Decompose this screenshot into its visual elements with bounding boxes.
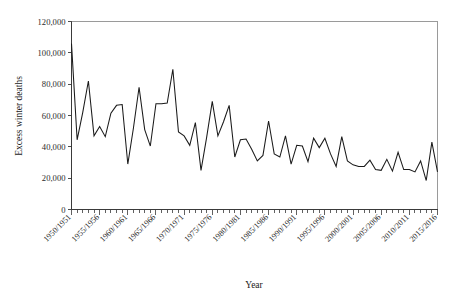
x-tick-label: 1970/1971 <box>154 213 185 244</box>
x-tick-label: 1965/1966 <box>126 213 157 244</box>
y-axis: 020,00040,00060,00080,000100,000120,000 … <box>14 17 72 215</box>
x-tick-label: 2010/2011 <box>380 213 411 244</box>
x-tick-label: 1960/1961 <box>98 213 129 244</box>
x-tick-label: 2015/2016 <box>408 213 439 244</box>
x-tick-label: 1990/1991 <box>267 213 298 244</box>
chart-figure: 020,00040,00060,00080,000100,000120,000 … <box>0 0 470 301</box>
y-tick-label: 40,000 <box>42 142 66 152</box>
excess-winter-deaths-series <box>72 43 438 180</box>
series-group <box>72 43 438 180</box>
x-tick-label: 1975/1976 <box>183 213 214 244</box>
y-tick-group: 020,00040,00060,00080,000100,000120,000 <box>38 17 72 215</box>
x-tick-label: 2005/2006 <box>351 213 382 244</box>
y-tick-label: 120,000 <box>38 17 66 27</box>
x-tick-label: 1955/1956 <box>70 213 101 244</box>
y-tick-label: 60,000 <box>42 111 66 121</box>
y-tick-label: 100,000 <box>38 48 66 58</box>
x-tick-label: 1995/1996 <box>295 213 326 244</box>
x-tick-label-group: 1950/19511955/19561960/19611965/19661970… <box>42 213 439 244</box>
x-tick-group <box>72 210 438 215</box>
y-tick-label: 20,000 <box>42 173 66 183</box>
plot-frame <box>72 22 438 210</box>
excess-winter-deaths-line-chart: 020,00040,00060,00080,000100,000120,000 … <box>0 0 470 301</box>
y-tick-label: 80,000 <box>42 79 66 89</box>
x-tick-label: 2000/2001 <box>323 213 354 244</box>
x-tick-label: 1980/1981 <box>211 213 242 244</box>
y-axis-title: Excess winter deaths <box>14 76 24 156</box>
x-tick-label: 1950/1951 <box>42 213 73 244</box>
x-axis: 1950/19511955/19561960/19611965/19661970… <box>42 210 439 291</box>
x-axis-title: Year <box>245 280 263 290</box>
x-tick-label: 1985/1986 <box>239 213 270 244</box>
